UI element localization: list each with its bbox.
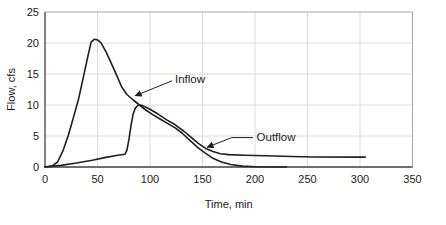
x-tick-label: 100 xyxy=(141,173,159,185)
chart-background xyxy=(0,0,446,225)
hydrograph-figure: 0501001502002503003500510152025Time, min… xyxy=(0,0,446,225)
x-axis-title: Time, min xyxy=(205,198,253,210)
y-tick-label: 5 xyxy=(33,130,39,142)
y-tick-label: 0 xyxy=(33,161,39,173)
y-axis-title: Flow, cfs xyxy=(5,68,17,111)
x-tick-label: 0 xyxy=(42,173,48,185)
x-tick-label: 150 xyxy=(193,173,211,185)
x-tick-label: 300 xyxy=(351,173,369,185)
y-tick-label: 10 xyxy=(27,99,39,111)
x-tick-label: 350 xyxy=(403,173,421,185)
x-tick-label: 250 xyxy=(298,173,316,185)
x-tick-label: 200 xyxy=(246,173,264,185)
y-tick-label: 15 xyxy=(27,68,39,80)
y-tick-label: 25 xyxy=(27,6,39,18)
y-tick-label: 20 xyxy=(27,37,39,49)
inflow-callout-label: Inflow xyxy=(175,73,206,85)
routing-hydrograph-chart: 0501001502002503003500510152025Time, min… xyxy=(0,0,446,225)
outflow-callout-label: Outflow xyxy=(257,131,297,143)
x-tick-label: 50 xyxy=(91,173,103,185)
